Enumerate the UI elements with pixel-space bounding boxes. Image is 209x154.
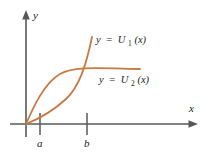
x-axis — [10, 120, 198, 128]
math-figure: y x a b y = U 1 (x) y = U 2 (x) — [0, 0, 209, 154]
tick-label-b: b — [84, 137, 90, 149]
x-axis-label: x — [188, 102, 194, 114]
tick-label-a: a — [37, 137, 43, 149]
curve-label-u2-fn: U — [121, 74, 130, 85]
curve-label-u2-arg: (x) — [137, 74, 149, 86]
curve-label-u1-arg: (x) — [134, 34, 146, 46]
curve-label-u2-equals: = — [109, 74, 115, 85]
curve-label-u2: y = U 2 (x) — [98, 74, 150, 88]
curve-u1 — [26, 37, 92, 124]
y-axis-arrowhead — [22, 10, 30, 20]
curve-label-u1: y = U 1 (x) — [95, 34, 147, 48]
figure-canvas: y x a b y = U 1 (x) y = U 2 (x) — [0, 0, 209, 154]
x-axis-arrowhead — [189, 120, 199, 128]
y-axis-label: y — [32, 9, 38, 21]
curve-label-u1-fn: U — [118, 34, 127, 45]
curve-label-u1-y: y — [95, 34, 101, 45]
curve-label-u2-y: y — [98, 74, 104, 85]
curve-label-u1-equals: = — [106, 34, 112, 45]
curve-label-u1-sub: 1 — [128, 39, 132, 48]
curve-label-u2-sub: 2 — [131, 79, 135, 88]
